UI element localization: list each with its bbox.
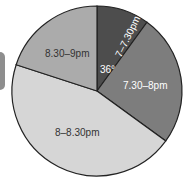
angle-annotation: 36°: [100, 64, 115, 75]
pie-slices: [12, 6, 182, 176]
slice-label-830-9pm: 8.30–9pm: [45, 48, 89, 59]
pie-chart: 7–7.30pm 36° 7.30–8pm 8–8.30pm 8.30–9pm: [0, 0, 194, 189]
slice-label-730-8pm: 7.30–8pm: [123, 80, 167, 91]
slice-label-8-830pm: 8–8.30pm: [55, 127, 99, 138]
